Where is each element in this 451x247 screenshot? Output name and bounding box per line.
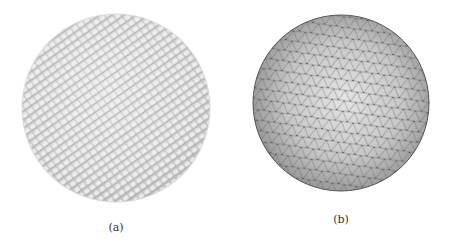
panel-a: (a) <box>0 0 225 247</box>
voxel-sphere-image <box>0 0 225 247</box>
mesh-sphere-image <box>225 0 451 247</box>
caption-a: (a) <box>108 221 123 234</box>
panel-b: (b) <box>225 0 451 247</box>
caption-b: (b) <box>333 213 349 226</box>
